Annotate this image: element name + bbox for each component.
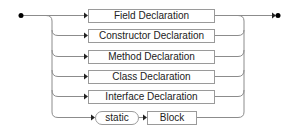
nonterminal-interface-declaration: Interface Declaration	[88, 90, 215, 104]
nonterminal-field-declaration: Field Declaration	[88, 9, 215, 23]
terminal-static: static	[95, 111, 139, 125]
nonterminal-method-declaration: Method Declaration	[88, 50, 215, 64]
start-terminator-icon	[19, 13, 24, 18]
nonterminal-block: Block	[147, 111, 197, 125]
nonterminal-constructor-declaration: Constructor Declaration	[88, 29, 215, 43]
end-terminator-icon	[276, 13, 281, 18]
nonterminal-class-declaration: Class Declaration	[88, 70, 215, 84]
